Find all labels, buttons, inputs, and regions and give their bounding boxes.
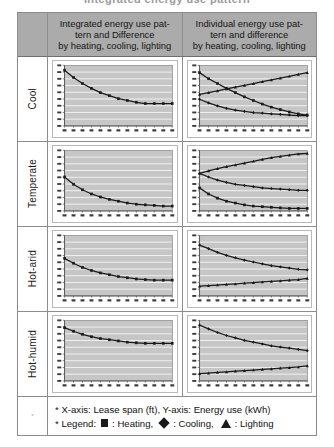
row-label-temperate-text: Temperate — [27, 159, 38, 208]
table-row: Temperate — [18, 142, 317, 227]
row-label-cool: Cool — [18, 57, 48, 141]
legend-heating-label: : Heating, — [112, 418, 153, 429]
table-header-row: Integrated energy use pat- tern and Diff… — [18, 13, 317, 57]
chart-temperate-individual — [187, 145, 313, 223]
row-label-temperate: Temperate — [18, 142, 48, 226]
footer-legend-note: * Legend: : Heating, : Cooling, : Lighti… — [55, 418, 316, 429]
header-col-integrated-line3: by heating, cooling, lighting — [58, 40, 171, 51]
chart-cool-individual — [187, 60, 313, 138]
cell-hot-arid-individual — [183, 227, 318, 311]
heating-square-icon — [101, 419, 108, 427]
header-col-integrated: Integrated energy use pat- tern and Diff… — [48, 13, 183, 57]
chart-hot-arid-integrated — [52, 230, 178, 308]
cell-hot-humid-integrated — [48, 312, 183, 396]
footer-corner-mark: * — [18, 397, 48, 435]
row-label-hot-humid-text: Hot-humid — [27, 330, 38, 378]
legend-prefix: * Legend: — [55, 418, 96, 429]
header-col-individual: Individual energy use pat- tern and diff… — [183, 13, 318, 57]
comparison-table: Integrated energy use pat- tern and Diff… — [17, 12, 317, 435]
chart-hot-humid-integrated — [52, 315, 178, 393]
chart-temperate-integrated — [52, 145, 178, 223]
cell-cool-integrated — [48, 57, 183, 141]
cell-hot-arid-integrated — [48, 227, 183, 311]
header-col-individual-line1: Individual energy use pat- — [196, 18, 303, 29]
clipped-top-text-label: Integrated energy use pattern — [0, 0, 334, 5]
legend-lighting-label: : Lighting — [235, 418, 274, 429]
figure-root: Integrated energy use pattern Integrated… — [0, 0, 334, 447]
table-footer: * * X-axis: Lease span (ft), Y-axis: Ene… — [18, 397, 317, 435]
row-label-hot-humid: Hot-humid — [18, 312, 48, 396]
footer-notes: * X-axis: Lease span (ft), Y-axis: Energ… — [48, 397, 317, 435]
lighting-triangle-icon — [221, 419, 231, 428]
header-col-integrated-line2: tern and Difference — [75, 29, 155, 40]
cooling-diamond-icon — [158, 417, 169, 428]
cell-cool-individual — [183, 57, 318, 141]
table-body: Cool Temperate — [18, 57, 317, 397]
chart-cool-integrated — [52, 60, 178, 138]
row-label-hot-arid-text: Hot-arid — [27, 250, 38, 287]
row-label-cool-text: Cool — [27, 88, 38, 109]
bottom-divider — [17, 435, 317, 436]
chart-hot-arid-individual — [187, 230, 313, 308]
cell-hot-humid-individual — [183, 312, 318, 396]
row-label-hot-arid: Hot-arid — [18, 227, 48, 311]
header-col-individual-line2: tern and difference — [210, 29, 288, 40]
chart-hot-humid-individual — [187, 315, 313, 393]
legend-cooling-label: : Cooling, — [173, 418, 214, 429]
footer-axis-note: * X-axis: Lease span (ft), Y-axis: Energ… — [55, 404, 316, 415]
table-row: Hot-arid — [18, 227, 317, 312]
clipped-top-text: Integrated energy use pattern — [0, 0, 334, 11]
header-corner-cell — [18, 13, 48, 57]
header-col-individual-line3: by heating, cooling, lighting — [193, 40, 306, 51]
table-row: Cool — [18, 57, 317, 142]
cell-temperate-integrated — [48, 142, 183, 226]
cell-temperate-individual — [183, 142, 318, 226]
header-col-integrated-line1: Integrated energy use pat- — [60, 18, 170, 29]
table-row: Hot-humid — [18, 312, 317, 397]
